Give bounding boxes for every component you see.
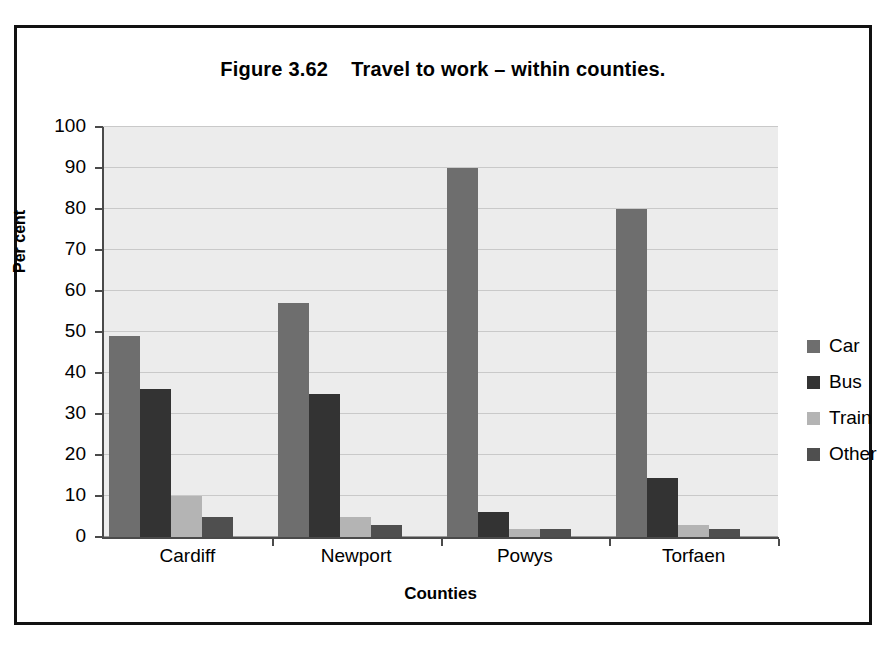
y-axis-tick: 50 (95, 331, 103, 333)
bar[interactable] (509, 529, 540, 537)
figure-frame: Figure 3.62 Travel to work – within coun… (14, 25, 872, 625)
bar[interactable] (540, 529, 571, 537)
bar[interactable] (309, 394, 340, 538)
y-axis-tick-mark (95, 167, 103, 169)
y-axis-tick: 10 (95, 495, 103, 497)
bar[interactable] (709, 529, 740, 537)
y-axis-tick-label: 80 (65, 197, 95, 219)
y-axis-tick-mark (95, 454, 103, 456)
bar-group (447, 127, 571, 537)
y-axis-tick-mark (95, 536, 103, 538)
y-axis-tick-mark (95, 331, 103, 333)
y-axis-tick-mark (95, 413, 103, 415)
legend-label: Bus (829, 371, 862, 393)
y-axis-tick: 100 (95, 126, 103, 128)
y-axis-tick-mark (95, 372, 103, 374)
x-axis-category-label: Powys (441, 545, 610, 567)
bar[interactable] (678, 525, 709, 537)
y-axis-tick: 70 (95, 249, 103, 251)
y-axis-tick-label: 90 (65, 156, 95, 178)
x-axis-category-label: Newport (272, 545, 441, 567)
bar-group (109, 127, 233, 537)
y-axis-tick-label: 60 (65, 279, 95, 301)
bar-group (616, 127, 740, 537)
y-axis-tick: 60 (95, 290, 103, 292)
bar[interactable] (171, 496, 202, 537)
legend-label: Train (829, 407, 872, 429)
bar-group (278, 127, 402, 537)
y-axis-tick: 40 (95, 372, 103, 374)
y-axis-tick-mark (95, 208, 103, 210)
y-axis-tick-mark (95, 249, 103, 251)
x-axis-category-label: Torfaen (609, 545, 778, 567)
y-axis-tick-label: 100 (54, 115, 95, 137)
legend-label: Car (829, 335, 860, 357)
y-axis-title: Per cent (11, 210, 29, 273)
y-axis-tick: 80 (95, 208, 103, 210)
y-axis-tick: 90 (95, 167, 103, 169)
legend-item[interactable]: Train (807, 400, 877, 436)
bar[interactable] (478, 512, 509, 537)
bar[interactable] (371, 525, 402, 537)
x-axis-tick (778, 539, 780, 546)
y-axis-tick-label: 50 (65, 320, 95, 342)
y-axis-tick-label: 70 (65, 238, 95, 260)
y-axis-tick-label: 10 (65, 484, 95, 506)
legend-label: Other (829, 443, 877, 465)
y-axis-tick-label: 20 (65, 443, 95, 465)
chart-title: Figure 3.62 Travel to work – within coun… (17, 58, 869, 81)
bar[interactable] (340, 517, 371, 538)
legend-item[interactable]: Other (807, 436, 877, 472)
x-axis-title: Counties (103, 584, 778, 604)
y-axis-tick-mark (95, 126, 103, 128)
x-axis-category-label: Cardiff (103, 545, 272, 567)
legend-swatch-icon (807, 448, 820, 461)
plot-area (103, 127, 778, 537)
y-axis-tick: 20 (95, 454, 103, 456)
legend-swatch-icon (807, 376, 820, 389)
bar[interactable] (278, 303, 309, 537)
y-axis-tick-label: 40 (65, 361, 95, 383)
bar[interactable] (616, 209, 647, 537)
y-axis-tick-mark (95, 495, 103, 497)
legend-swatch-icon (807, 340, 820, 353)
bar[interactable] (109, 336, 140, 537)
bar[interactable] (647, 478, 678, 537)
bar[interactable] (202, 517, 233, 538)
legend-item[interactable]: Bus (807, 364, 877, 400)
y-axis-tick: 30 (95, 413, 103, 415)
bar[interactable] (140, 389, 171, 537)
legend-item[interactable]: Car (807, 328, 877, 364)
chart-legend: CarBusTrainOther (807, 328, 877, 472)
y-axis-tick-label: 30 (65, 402, 95, 424)
y-axis-tick: 0 (95, 536, 103, 538)
bar[interactable] (447, 168, 478, 537)
y-axis-tick-label: 0 (75, 525, 95, 547)
y-axis-tick-mark (95, 290, 103, 292)
legend-swatch-icon (807, 412, 820, 425)
